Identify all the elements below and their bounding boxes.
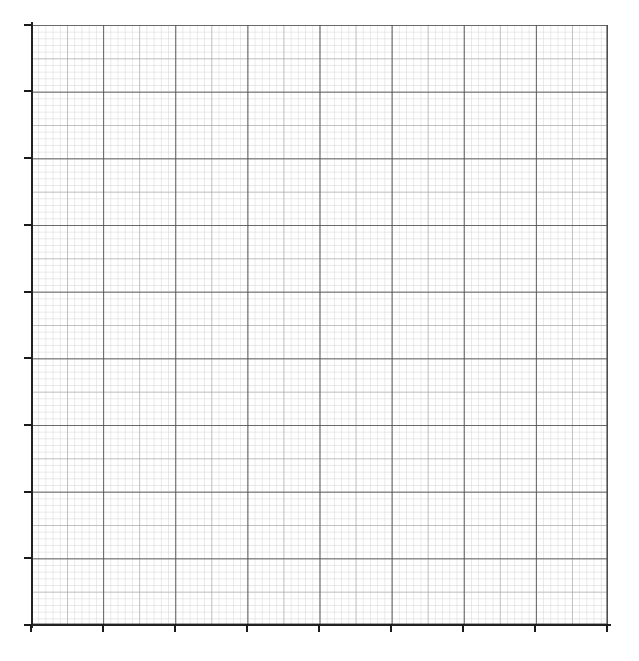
major-grid-svg	[31, 25, 608, 625]
y-tick-0	[24, 24, 32, 26]
medium-grid-svg	[31, 25, 608, 625]
x-tick-4	[318, 624, 320, 632]
plot-area	[31, 25, 608, 625]
y-tick-3	[24, 224, 32, 226]
medium-gridlines	[31, 25, 608, 625]
y-tick-8	[24, 557, 32, 559]
y-tick-5	[24, 357, 32, 359]
y-tick-6	[24, 424, 32, 426]
x-tick-8	[606, 624, 608, 632]
minor-gridlines	[31, 25, 608, 625]
y-tick-2	[24, 157, 32, 159]
x-tick-2	[174, 624, 176, 632]
y-tick-7	[24, 491, 32, 493]
graph-paper-page	[0, 0, 639, 661]
y-tick-9	[24, 624, 32, 626]
x-tick-3	[246, 624, 248, 632]
y-tick-1	[24, 90, 32, 92]
major-gridlines	[31, 25, 608, 625]
y-tick-4	[24, 291, 32, 293]
x-tick-6	[462, 624, 464, 632]
x-tick-1	[102, 624, 104, 632]
x-tick-7	[534, 624, 536, 632]
y-axis-spine	[31, 22, 33, 628]
x-tick-5	[390, 624, 392, 632]
minor-grid-svg	[31, 25, 608, 625]
